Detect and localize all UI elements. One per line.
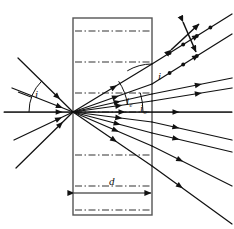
label-exit-angle: i <box>158 70 161 82</box>
label-incidence-angle: i <box>35 88 38 100</box>
exit-ray-upper-1-bead-1 <box>181 43 185 47</box>
label-ie-subscript: e <box>129 101 132 108</box>
label-thickness: d <box>109 175 115 187</box>
exit-ray-upper-2-bead-0 <box>168 71 172 75</box>
exit-ray-upper-2-bead-2 <box>195 54 199 58</box>
optics-figure-root: i i ie io d <box>0 0 234 229</box>
exit-ray-upper-1-bead-2 <box>195 34 199 38</box>
ray-diagram-canvas: i i ie io d <box>0 0 234 229</box>
exit-ray-upper-1-bead-3 <box>209 26 213 30</box>
exit-ray-upper-2-bead-1 <box>181 63 185 67</box>
exit-ray-upper-1-bead-0 <box>168 51 172 55</box>
